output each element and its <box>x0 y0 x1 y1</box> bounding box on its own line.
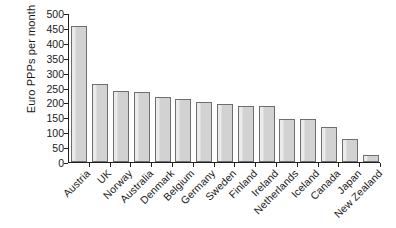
y-axis-tick-mark <box>64 118 68 119</box>
y-axis-tick-label: 50 <box>52 142 64 154</box>
bar <box>238 106 254 162</box>
y-axis-tick-labels: 500450400350300250200150100500 <box>36 14 64 163</box>
y-axis-tick-label: 500 <box>46 8 64 20</box>
bar <box>363 155 379 162</box>
y-axis-tick-mark <box>64 133 68 134</box>
y-axis-tick-mark <box>64 103 68 104</box>
y-axis-tick-mark <box>64 14 68 15</box>
bar <box>155 97 171 162</box>
bar <box>134 92 150 162</box>
y-axis-tick-label: 100 <box>46 127 64 139</box>
bar <box>300 119 316 162</box>
y-axis-tick-mark <box>64 148 68 149</box>
y-axis-tick-mark <box>64 163 68 164</box>
bar <box>321 127 337 162</box>
bar-series <box>69 14 380 162</box>
y-axis-tick-mark <box>64 74 68 75</box>
bar <box>71 26 87 162</box>
plot-area <box>68 14 380 163</box>
y-axis-tick-mark <box>64 29 68 30</box>
bar <box>113 91 129 162</box>
y-axis-tick-label: 150 <box>46 112 64 124</box>
bar <box>217 104 233 162</box>
y-axis-tick-mark <box>64 89 68 90</box>
y-axis-tick-mark <box>64 44 68 45</box>
bar <box>92 84 108 162</box>
bar <box>196 102 212 162</box>
bar <box>175 99 191 162</box>
y-axis-tick-mark <box>64 59 68 60</box>
bar <box>342 139 358 162</box>
bar <box>259 106 275 162</box>
y-axis-tick-label: 350 <box>46 53 64 65</box>
y-axis-tick-label: 450 <box>46 23 64 35</box>
y-axis-tick-label: 200 <box>46 97 64 109</box>
bar <box>279 119 295 162</box>
x-axis-tick-label: Austria <box>61 167 93 199</box>
bar-chart-figure: Euro PPPs per month 50045040035030025020… <box>0 0 396 228</box>
x-axis-tick-labels: AustriaUKNorwayAustraliaDenmarkBelgiumGe… <box>68 167 396 227</box>
y-axis-tick-label: 250 <box>46 83 64 95</box>
y-axis-tick-label: 300 <box>46 68 64 80</box>
y-axis-tick-label: 400 <box>46 38 64 50</box>
